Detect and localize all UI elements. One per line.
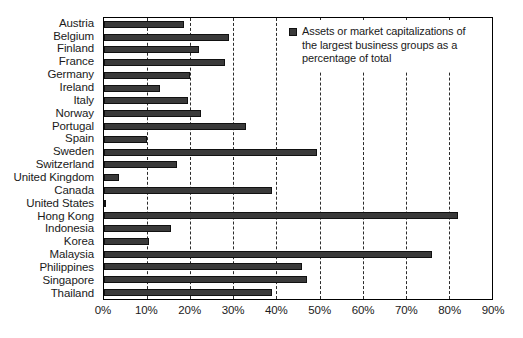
bar <box>104 289 272 296</box>
bar <box>104 136 147 143</box>
bar <box>104 161 177 168</box>
bar-chart: AustriaBelgiumFinlandFranceGermanyIrelan… <box>0 0 523 338</box>
bar <box>104 21 184 28</box>
category-label: Sweden <box>0 146 99 159</box>
bar <box>104 225 171 232</box>
category-label: Spain <box>0 133 99 146</box>
category-label: Philippines <box>0 261 99 274</box>
bar-row <box>104 197 492 210</box>
bar-row <box>104 146 492 159</box>
bar <box>104 110 201 117</box>
category-label: Austria <box>0 17 99 30</box>
bar-row <box>104 209 492 222</box>
bar-row <box>104 82 492 95</box>
bar-row <box>104 273 492 286</box>
x-tick-label: 0% <box>95 303 111 317</box>
category-label: Malaysia <box>0 248 99 261</box>
category-label: United Kingdom <box>0 171 99 184</box>
legend-label: Assets or market capitalizations of the … <box>302 25 483 66</box>
category-label: United States <box>0 197 99 210</box>
bar-row <box>104 133 492 146</box>
bar <box>104 46 199 53</box>
chart-legend: Assets or market capitalizations of the … <box>283 20 487 72</box>
bar-row <box>104 235 492 248</box>
legend-square-icon <box>289 28 297 36</box>
bar <box>104 276 307 283</box>
x-tick-label: 10% <box>135 303 158 317</box>
bar <box>104 263 302 270</box>
x-tick-label: 70% <box>395 303 418 317</box>
bar-row <box>104 248 492 261</box>
bar <box>104 85 160 92</box>
bar-row <box>104 261 492 274</box>
category-label: Portugal <box>0 120 99 133</box>
category-label: Canada <box>0 184 99 197</box>
bar <box>104 123 246 130</box>
value-axis: 0%10%20%30%40%50%60%70%80%90% <box>103 303 493 319</box>
bar <box>104 97 188 104</box>
x-tick-label: 40% <box>265 303 288 317</box>
bar <box>104 72 190 79</box>
category-label: Singapore <box>0 274 99 287</box>
bar <box>104 251 432 258</box>
bar-row <box>104 95 492 108</box>
x-tick-label: 50% <box>308 303 331 317</box>
category-label: Norway <box>0 107 99 120</box>
category-label: Korea <box>0 236 99 249</box>
x-tick-label: 60% <box>352 303 375 317</box>
category-label: Hong Kong <box>0 210 99 223</box>
category-label: Thailand <box>0 287 99 300</box>
category-label: France <box>0 56 99 69</box>
bar-row <box>104 171 492 184</box>
category-label: Finland <box>0 43 99 56</box>
bar-row <box>104 286 492 299</box>
bar <box>104 212 458 219</box>
gridline <box>492 18 493 299</box>
bar-row <box>104 158 492 171</box>
bar <box>104 174 119 181</box>
bar-row <box>104 222 492 235</box>
x-tick-label: 30% <box>222 303 245 317</box>
bar-row <box>104 120 492 133</box>
category-axis: AustriaBelgiumFinlandFranceGermanyIrelan… <box>0 17 99 300</box>
bar-row <box>104 184 492 197</box>
bar <box>104 149 317 156</box>
x-tick-label: 90% <box>482 303 505 317</box>
category-label: Italy <box>0 94 99 107</box>
x-tick-label: 20% <box>178 303 201 317</box>
category-label: Indonesia <box>0 223 99 236</box>
bar <box>104 34 229 41</box>
bar <box>104 200 106 207</box>
bar-row <box>104 107 492 120</box>
x-tick-label: 80% <box>438 303 461 317</box>
category-label: Switzerland <box>0 158 99 171</box>
category-label: Ireland <box>0 81 99 94</box>
category-label: Germany <box>0 68 99 81</box>
category-label: Belgium <box>0 30 99 43</box>
bar <box>104 238 149 245</box>
bar <box>104 59 225 66</box>
bar <box>104 187 272 194</box>
